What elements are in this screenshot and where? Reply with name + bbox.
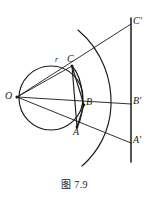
ray-o-b-bprime [17, 97, 131, 104]
segment-o-c [17, 66, 72, 97]
point-o-dot [15, 95, 18, 98]
point-c-dot [71, 65, 74, 68]
label-a: A [73, 127, 79, 137]
label-c: C [67, 54, 74, 64]
point-b-dot [83, 104, 86, 107]
label-a-prime: A' [133, 135, 141, 145]
geometry-drawing [0, 0, 149, 199]
label-c-prime: C' [133, 16, 142, 26]
figure-container: O r C B A C' B' A' 图 7.9 [0, 0, 149, 199]
label-r: r [55, 56, 58, 64]
label-b: B [86, 97, 92, 107]
label-b-prime: B' [133, 96, 141, 106]
label-o: O [5, 91, 12, 101]
figure-caption: 图 7.9 [0, 176, 149, 191]
